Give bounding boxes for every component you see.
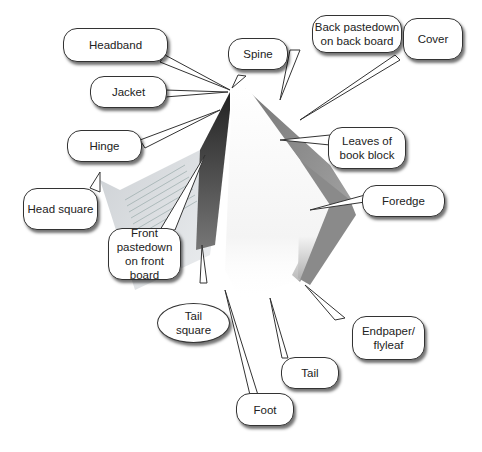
label-leaves: Leaves of book block xyxy=(328,127,406,169)
label-endpaper: Endpaper/ flyleaf xyxy=(352,316,425,360)
label-headband: Headband xyxy=(63,28,168,62)
label-jacket: Jacket xyxy=(90,76,167,108)
label-foot: Foot xyxy=(236,393,294,426)
label-back-pastedown: Back pastedown on back board xyxy=(312,15,402,53)
label-foredge: Foredge xyxy=(362,185,445,217)
label-cover: Cover xyxy=(403,18,463,60)
label-front-pastedown: Front pastedown on front board xyxy=(108,228,181,280)
label-spine: Spine xyxy=(228,38,288,70)
label-hinge: Hinge xyxy=(67,130,142,162)
label-head-square: Head square xyxy=(23,188,98,230)
label-tail: Tail xyxy=(281,357,339,389)
label-tail-square: Tail square xyxy=(157,303,230,343)
